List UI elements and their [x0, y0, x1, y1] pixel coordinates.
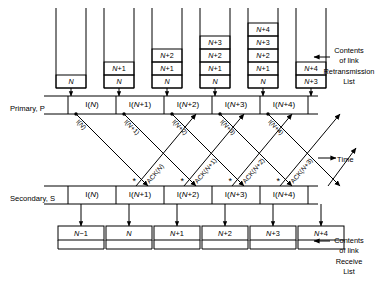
receive-list-caption: Contents of link Receive List — [311, 236, 387, 278]
secondary-frame: I(N+3) — [212, 190, 260, 199]
retransmission-cell: N — [104, 77, 134, 86]
ack-departure-asterisk: * — [277, 176, 281, 186]
retransmission-list-caption: Contents of link Retransmission List — [311, 46, 387, 88]
secondary-frame: I(N) — [68, 190, 116, 199]
retransmission-cell: N+3 — [248, 38, 278, 47]
retransmission-cell: N+1 — [104, 64, 134, 73]
secondary-frame: I(N+1) — [116, 190, 164, 199]
secondary-frame: I(N+4) — [260, 190, 308, 199]
primary-frame: I(N+2) — [164, 100, 212, 109]
primary-station-label: Primary, P — [10, 104, 45, 113]
protocol-timing-diagram: NNN+1NN+1N+2NN+1N+2N+3NN+1N+2N+3N+4N+3N+… — [0, 0, 387, 287]
receive-list-box: N−1 — [58, 229, 104, 238]
receive-list-box: N — [106, 229, 152, 238]
retransmission-cell: N+3 — [200, 38, 230, 47]
primary-frame: I(N) — [68, 100, 116, 109]
receive-list-box: N+1 — [154, 229, 200, 238]
retransmission-cell: N — [248, 77, 278, 86]
retransmission-cell: N+1 — [248, 64, 278, 73]
secondary-frame: I(N+2) — [164, 190, 212, 199]
primary-frame: I(N+4) — [260, 100, 308, 109]
retransmission-cell: N — [200, 77, 230, 86]
receive-list-box: N+3 — [250, 229, 296, 238]
primary-frame: I(N+1) — [116, 100, 164, 109]
ack-departure-asterisk: * — [181, 176, 185, 186]
retransmission-cell: N+2 — [248, 51, 278, 60]
retransmission-cell: N+2 — [200, 51, 230, 60]
retransmission-cell: N — [152, 77, 182, 86]
retransmission-cell: N+1 — [152, 64, 182, 73]
ack-departure-asterisk: * — [133, 176, 137, 186]
retransmission-cell: N — [56, 77, 86, 86]
retransmission-cell: N+1 — [200, 64, 230, 73]
retransmission-cell: N+2 — [152, 51, 182, 60]
time-axis-label: Time — [337, 155, 354, 164]
secondary-station-label: Secondary, S — [10, 194, 55, 203]
primary-frame: I(N+3) — [212, 100, 260, 109]
retransmission-cell: N+4 — [248, 25, 278, 34]
ack-departure-asterisk: * — [229, 176, 233, 186]
receive-list-box: N+2 — [202, 229, 248, 238]
